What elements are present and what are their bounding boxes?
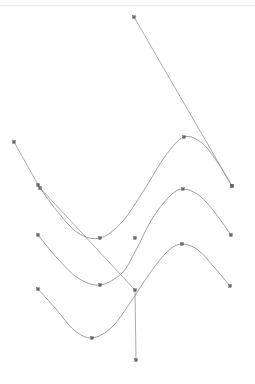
marker-middle-trough[interactable] xyxy=(99,284,102,287)
series-line-line-descending-left xyxy=(14,142,136,360)
marker-lower-end[interactable] xyxy=(229,285,232,288)
chart-canvas xyxy=(0,0,255,384)
series-line-curve-upper xyxy=(38,136,232,238)
marker-line-r-start[interactable] xyxy=(133,16,136,19)
marker-lower-trough[interactable] xyxy=(91,337,94,340)
marker-lower-mid[interactable] xyxy=(134,289,137,292)
marker-line-l-end[interactable] xyxy=(135,359,138,362)
plot-area xyxy=(0,0,255,384)
marker-upper-trough[interactable] xyxy=(99,237,102,240)
marker-middle-peak[interactable] xyxy=(182,188,185,191)
marker-line-l-start[interactable] xyxy=(13,141,16,144)
marker-line-l-mid[interactable] xyxy=(39,187,42,190)
marker-upper-peak[interactable] xyxy=(183,136,186,139)
marker-lower-start[interactable] xyxy=(37,288,40,291)
marker-middle-start[interactable] xyxy=(37,234,40,237)
marker-line-r-end[interactable] xyxy=(231,185,234,188)
marker-upper-start[interactable] xyxy=(37,184,40,187)
marker-group xyxy=(13,16,234,362)
series-line-line-descending-right xyxy=(134,17,232,186)
marker-middle-mid[interactable] xyxy=(134,237,137,240)
series-group xyxy=(14,17,232,360)
marker-middle-end[interactable] xyxy=(230,234,233,237)
marker-lower-peak[interactable] xyxy=(181,243,184,246)
